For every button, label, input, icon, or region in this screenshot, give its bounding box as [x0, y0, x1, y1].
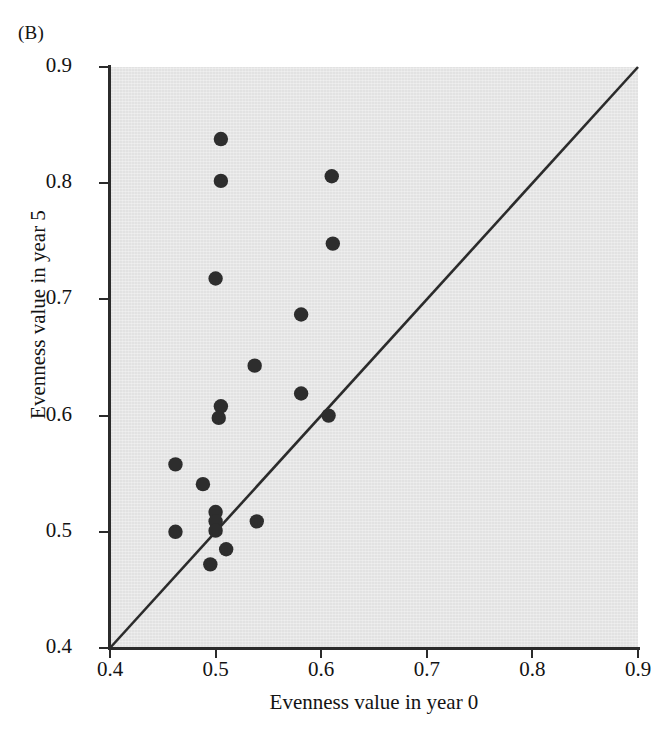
scatter-point: [214, 132, 228, 146]
y-tick-mark: [99, 66, 109, 68]
y-tick-label: 0.5: [14, 518, 72, 543]
y-tick-mark: [99, 298, 109, 300]
x-tick-label: 0.5: [186, 657, 246, 682]
scatter-point: [326, 236, 340, 250]
scatter-point: [203, 557, 217, 571]
scatter-point: [250, 514, 264, 528]
x-tick-label: 0.6: [291, 657, 351, 682]
scatter-point: [168, 457, 182, 471]
x-tick-label: 0.4: [80, 657, 140, 682]
scatter-point: [294, 386, 308, 400]
scatter-point: [325, 169, 339, 183]
scatter-point: [214, 174, 228, 188]
x-axis-label: Evenness value in year 0: [110, 690, 638, 715]
scatter-point: [247, 358, 261, 372]
scatter-points: [168, 132, 340, 572]
y-axis-label: Evenness value in year 5: [26, 165, 51, 465]
y-tick-label: 0.9: [14, 53, 72, 78]
scatter-point: [321, 408, 335, 422]
scatter-point: [196, 477, 210, 491]
y-tick-mark: [99, 531, 109, 533]
y-tick-mark: [99, 415, 109, 417]
scatter-point: [208, 271, 222, 285]
scatter-point: [294, 307, 308, 321]
y-tick-mark: [99, 647, 109, 649]
one-to-one-reference-line: [110, 67, 638, 648]
scatter-point: [208, 523, 222, 537]
y-tick-label: 0.4: [14, 634, 72, 659]
y-tick-mark: [99, 182, 109, 184]
scatter-point: [168, 525, 182, 539]
x-tick-label: 0.7: [397, 657, 457, 682]
x-tick-label: 0.9: [608, 657, 662, 682]
scatter-point: [212, 411, 226, 425]
figure-panel-b: (B) 0.40.50.60.70.80.9 0.40.50.60.70.80.…: [0, 0, 662, 733]
panel-label: (B): [18, 22, 44, 44]
scatter-point: [219, 542, 233, 556]
x-tick-label: 0.8: [502, 657, 562, 682]
plot-data-layer: [110, 67, 638, 648]
